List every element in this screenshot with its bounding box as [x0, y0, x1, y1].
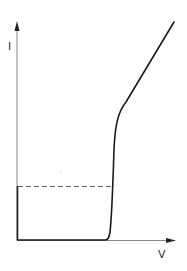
x-axis-label: V — [158, 249, 166, 260]
iv-characteristic-diagram: I V — [0, 0, 187, 271]
x-axis-arrow-icon — [166, 238, 176, 243]
speck — [60, 171, 61, 172]
y-axis-label: I — [8, 41, 11, 52]
diagram-canvas — [0, 0, 187, 271]
iv-curve — [18, 22, 175, 240]
y-axis-arrow-icon — [15, 21, 20, 31]
